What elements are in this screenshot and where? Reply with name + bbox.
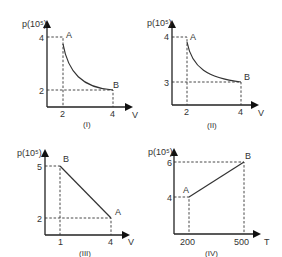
caption: (IV): [205, 249, 218, 257]
point-B-label: B: [245, 151, 251, 161]
point-B-label: B: [63, 154, 69, 164]
graph-IV: p(10⁵) T 6 4 200 500 A B (IV): [148, 147, 270, 257]
process-line: [189, 162, 244, 197]
dash-A: [47, 37, 63, 107]
dash-B: [45, 166, 60, 235]
x-tick: 2: [60, 109, 65, 119]
x-axis-label: V: [132, 110, 138, 120]
point-A-label: A: [66, 30, 72, 40]
y-axis-label: p(10⁵): [147, 18, 172, 28]
y-tick: 4: [39, 33, 44, 43]
y-tick: 2: [39, 86, 44, 96]
four-thermodynamic-graphs: p(10⁵) V 4 2 2 4 A B (I) p(10⁵) V 4 3 2 …: [0, 0, 282, 257]
graph-III: p(10⁵) V 5 2 1 4 B A (III): [17, 148, 134, 257]
dash-B: [47, 90, 113, 107]
x-tick: 200: [180, 237, 195, 247]
caption: (I): [83, 120, 91, 129]
point-B-label: B: [244, 72, 250, 82]
x-axis-label: V: [258, 108, 264, 118]
dash-A: [45, 218, 111, 235]
x-axis-label: V: [128, 237, 134, 247]
process-curve: [63, 44, 113, 90]
dash-B: [172, 82, 241, 105]
x-tick: 2: [184, 107, 189, 117]
x-tick: 1: [58, 237, 63, 247]
point-A-label: A: [190, 32, 196, 42]
x-tick: 4: [110, 109, 115, 119]
y-tick: 3: [164, 78, 169, 88]
y-tick: 2: [37, 214, 42, 224]
x-tick: 500: [234, 237, 249, 247]
y-tick: 5: [37, 162, 42, 172]
y-axis-label: p(10⁵): [17, 148, 42, 158]
y-tick: 6: [167, 158, 172, 168]
point-A-label: A: [183, 185, 189, 195]
graph-I: p(10⁵) V 4 2 2 4 A B (I): [22, 19, 138, 129]
dash-B: [174, 162, 244, 234]
dash-A: [172, 37, 187, 105]
point-A-label: A: [115, 207, 121, 217]
y-axis-label: p(10⁵): [22, 19, 47, 29]
y-tick: 4: [164, 32, 169, 42]
caption: (II): [207, 121, 217, 130]
dash-A: [174, 197, 189, 234]
x-axis-label: T: [264, 237, 270, 247]
process-line: [60, 166, 111, 218]
caption: (III): [79, 249, 91, 257]
process-curve: [187, 42, 241, 82]
x-tick: 4: [238, 107, 243, 117]
point-B-label: B: [113, 80, 119, 90]
graph-II: p(10⁵) V 4 3 2 4 A B (II): [147, 18, 264, 130]
y-tick: 4: [167, 193, 172, 203]
y-axis-label: p(10⁵): [148, 147, 173, 157]
x-tick: 4: [108, 237, 113, 247]
